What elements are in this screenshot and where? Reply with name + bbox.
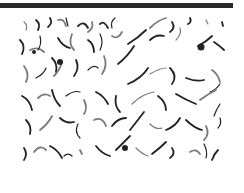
filament	[76, 124, 80, 138]
filament	[96, 146, 110, 156]
filament	[200, 90, 216, 100]
filament	[214, 104, 220, 116]
filament	[80, 150, 82, 154]
filament	[96, 92, 108, 104]
filament	[128, 30, 146, 44]
filament	[88, 66, 98, 70]
filament	[214, 42, 224, 50]
filament	[130, 112, 144, 130]
filament	[60, 118, 74, 123]
filament-texture	[0, 0, 244, 193]
filament	[218, 118, 221, 128]
dark-blob	[32, 50, 36, 54]
filament	[158, 96, 166, 110]
filament	[52, 58, 57, 72]
filament	[128, 68, 148, 84]
filament	[48, 18, 51, 27]
filament	[150, 36, 164, 41]
filament	[36, 68, 46, 78]
filament	[64, 154, 72, 156]
filament	[186, 78, 204, 81]
filament	[58, 38, 70, 48]
filament	[212, 70, 220, 82]
filament	[190, 150, 200, 154]
filament	[50, 146, 62, 158]
filament	[58, 20, 66, 26]
filament	[78, 23, 88, 28]
filament	[52, 90, 60, 106]
filament	[88, 40, 94, 52]
filament	[66, 92, 80, 97]
filament	[100, 34, 102, 50]
filament	[24, 66, 28, 82]
dark-blob	[198, 44, 205, 51]
filament	[40, 116, 52, 130]
filament	[111, 18, 115, 28]
filament	[204, 126, 208, 140]
filament	[118, 46, 134, 64]
filament	[222, 22, 223, 26]
filament	[186, 120, 202, 130]
filament	[36, 20, 39, 30]
filament	[94, 119, 106, 126]
filament	[188, 18, 191, 24]
dark-blob	[122, 145, 128, 151]
filament	[150, 18, 166, 28]
filament	[170, 22, 174, 32]
filament	[112, 118, 126, 126]
filament	[170, 148, 174, 158]
filament	[136, 148, 148, 156]
filament	[150, 68, 166, 74]
filament	[70, 34, 74, 50]
filament	[74, 60, 78, 76]
filament	[116, 96, 121, 112]
filament	[34, 147, 46, 152]
filament	[204, 144, 207, 158]
filament	[84, 100, 86, 114]
filament	[24, 22, 27, 30]
filament	[22, 96, 32, 110]
filament	[20, 40, 24, 54]
filament	[170, 68, 175, 84]
filament	[150, 124, 162, 129]
filament	[38, 94, 50, 98]
filament	[132, 92, 154, 104]
filament	[166, 118, 180, 130]
filament	[26, 120, 31, 134]
filament	[112, 32, 122, 37]
filament	[24, 148, 26, 160]
dark-blob	[57, 59, 63, 65]
filament	[176, 94, 196, 104]
filament	[152, 142, 166, 154]
micrograph-image	[0, 0, 244, 193]
filament	[100, 23, 108, 28]
filament	[102, 56, 106, 74]
filament	[206, 20, 208, 24]
filament	[176, 28, 181, 40]
filament	[88, 22, 93, 32]
filament	[212, 150, 218, 160]
